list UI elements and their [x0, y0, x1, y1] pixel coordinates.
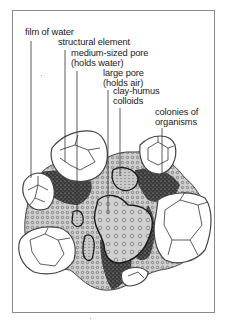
label-colonies: colonies of organisms: [155, 108, 198, 127]
label-clay-humus: clay-humus colloids: [113, 87, 160, 106]
medium-pore-region: [72, 211, 83, 227]
stray-mark: [41, 75, 42, 76]
label-structural-element: structural element: [58, 38, 130, 48]
medium-pore-region: [83, 235, 94, 261]
label-medium-pore: medium-sized pore (holds water): [71, 49, 148, 68]
stray-mark: [90, 318, 91, 319]
